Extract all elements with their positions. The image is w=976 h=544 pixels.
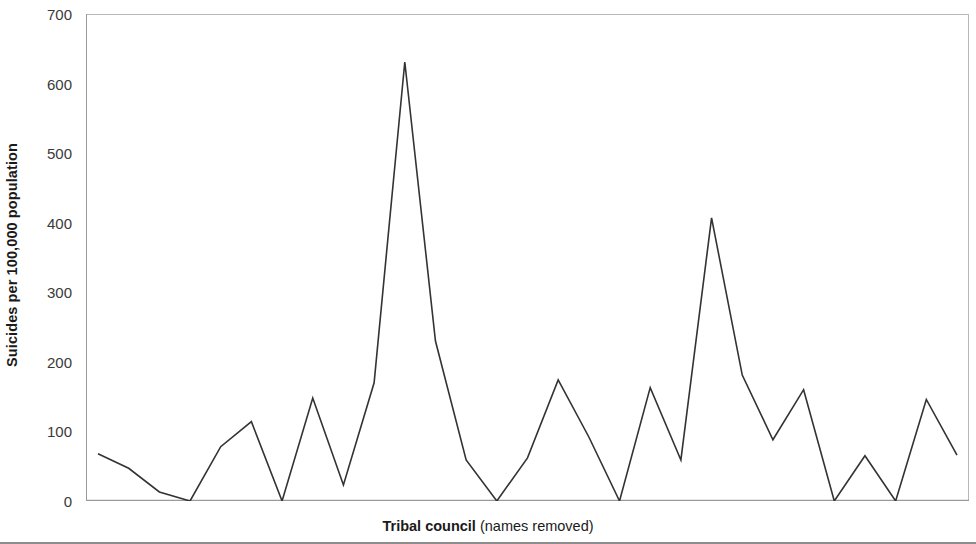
y-axis-title: Suicides per 100,000 population (0, 0, 24, 510)
y-axis-tick-label: 400 (47, 214, 72, 231)
y-axis-tick-labels: 0100200300400500600700 (24, 0, 80, 510)
y-axis-tick-label: 100 (47, 423, 72, 440)
y-axis-tick-label: 700 (47, 6, 72, 23)
y-axis-title-text: Suicides per 100,000 population (4, 143, 20, 367)
plot-area (86, 14, 969, 501)
x-axis-title: Tribal council (names removed) (0, 518, 976, 534)
y-axis-tick-label: 0 (64, 493, 72, 510)
x-axis-title-bold: Tribal council (382, 518, 475, 534)
y-axis-tick-label: 300 (47, 284, 72, 301)
line-chart-svg (86, 14, 969, 501)
x-axis-title-plain: (names removed) (476, 518, 594, 534)
data-series-line (98, 62, 957, 501)
y-axis-tick-label: 600 (47, 75, 72, 92)
chart-figure: Suicides per 100,000 population 01002003… (0, 0, 976, 544)
y-axis-tick-label: 200 (47, 353, 72, 370)
y-axis-tick-label: 500 (47, 145, 72, 162)
